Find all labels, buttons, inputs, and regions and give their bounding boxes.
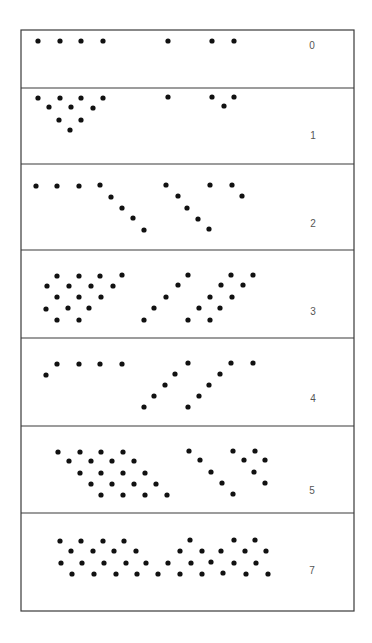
dot xyxy=(76,273,81,278)
dot xyxy=(97,273,102,278)
dot xyxy=(229,182,234,187)
panel-7: 7 xyxy=(57,537,315,576)
dot xyxy=(175,193,180,198)
dot xyxy=(217,371,222,376)
panel-5: 5 xyxy=(55,448,315,497)
dot xyxy=(119,205,124,210)
dot xyxy=(228,360,233,365)
dot xyxy=(78,538,83,543)
panel-number-label: 7 xyxy=(309,565,315,576)
dot xyxy=(184,205,189,210)
dot xyxy=(131,481,136,486)
dot xyxy=(54,361,59,366)
dot xyxy=(77,470,82,475)
dot xyxy=(188,560,193,565)
dot xyxy=(231,537,236,542)
dot xyxy=(90,548,95,553)
dot xyxy=(44,283,49,288)
dot xyxy=(231,560,236,565)
dot xyxy=(172,371,177,376)
dot xyxy=(43,306,48,311)
dot xyxy=(109,458,114,463)
dot xyxy=(79,560,84,565)
dot xyxy=(209,38,214,43)
dot xyxy=(165,38,170,43)
dot xyxy=(58,560,63,565)
dot xyxy=(69,571,74,576)
dot xyxy=(54,294,59,299)
dot xyxy=(262,480,267,485)
dot xyxy=(98,294,103,299)
dot xyxy=(239,193,244,198)
dot xyxy=(109,481,114,486)
dot xyxy=(76,361,81,366)
dot xyxy=(141,404,146,409)
dot xyxy=(120,492,125,497)
dot xyxy=(131,458,136,463)
dot xyxy=(151,393,156,398)
panel-0: 0 xyxy=(35,38,315,51)
dot xyxy=(98,470,103,475)
dot xyxy=(130,215,135,220)
dot xyxy=(185,404,190,409)
dot xyxy=(120,470,125,475)
dot xyxy=(78,117,83,122)
panel-number-label: 2 xyxy=(310,218,316,229)
dot xyxy=(68,104,73,109)
dot xyxy=(35,38,40,43)
dot xyxy=(163,182,168,187)
dot xyxy=(57,38,62,43)
dot xyxy=(78,95,83,100)
dot xyxy=(177,548,182,553)
dot xyxy=(101,560,106,565)
dot xyxy=(120,449,125,454)
dot xyxy=(231,94,236,99)
dot xyxy=(100,538,105,543)
dot xyxy=(251,469,256,474)
dot xyxy=(220,570,225,575)
dot xyxy=(142,492,147,497)
dot xyxy=(35,95,40,100)
dot xyxy=(265,571,270,576)
dot xyxy=(33,183,38,188)
panel-number-label: 5 xyxy=(309,485,315,496)
dot xyxy=(209,94,214,99)
dot xyxy=(67,127,72,132)
dot xyxy=(175,282,180,287)
panels: 0123457 xyxy=(33,38,316,576)
dot xyxy=(242,548,247,553)
dot xyxy=(57,95,62,100)
dot xyxy=(68,548,73,553)
dot-pattern-figure: 0123457 xyxy=(0,0,372,643)
dot xyxy=(187,537,192,542)
dot xyxy=(230,491,235,496)
panel-3: 3 xyxy=(43,272,316,322)
dot xyxy=(141,317,146,322)
dot xyxy=(88,458,93,463)
dot xyxy=(66,458,71,463)
dot xyxy=(56,117,61,122)
dot xyxy=(208,559,213,564)
dot xyxy=(195,216,200,221)
dot xyxy=(196,305,201,310)
dot xyxy=(252,537,257,542)
panel-2: 2 xyxy=(33,182,316,232)
dot xyxy=(65,305,70,310)
dot xyxy=(219,480,224,485)
dot xyxy=(46,104,51,109)
dot xyxy=(77,449,82,454)
dot xyxy=(218,282,223,287)
dot xyxy=(66,283,71,288)
dot xyxy=(230,448,235,453)
dot xyxy=(263,548,268,553)
panel-1: 1 xyxy=(35,94,316,141)
dot xyxy=(54,183,59,188)
dot xyxy=(100,95,105,100)
dot xyxy=(207,317,212,322)
dot xyxy=(91,571,96,576)
panel-number-label: 4 xyxy=(310,393,316,404)
dot xyxy=(217,305,222,310)
dot xyxy=(54,273,59,278)
dot xyxy=(199,571,204,576)
dot xyxy=(199,548,204,553)
